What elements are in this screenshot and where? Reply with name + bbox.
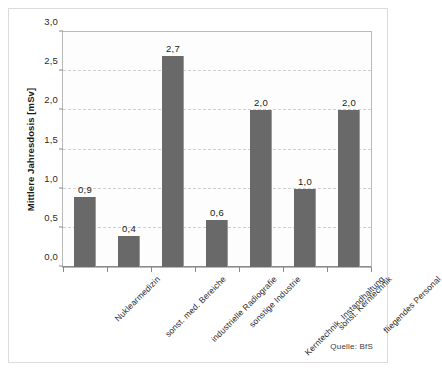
x-tick-mark <box>151 267 152 272</box>
bar-slot: 2,0 <box>239 32 283 267</box>
bar-value-label: 2,0 <box>342 97 356 108</box>
y-tick-label: 0,0 <box>44 251 58 262</box>
bar[interactable] <box>338 110 360 267</box>
x-tick-mark <box>239 267 240 272</box>
bar[interactable] <box>250 110 272 267</box>
x-tick-mark <box>371 267 372 272</box>
bar[interactable] <box>74 197 96 268</box>
source-note: Quelle: BfS <box>330 342 373 351</box>
bar-value-label: 1,0 <box>298 176 312 187</box>
y-tick-label: 1,5 <box>44 133 58 144</box>
x-tick-mark <box>63 267 64 272</box>
y-tick-label: 2,5 <box>44 55 58 66</box>
y-tick-label: 2,0 <box>44 94 58 105</box>
bar-value-label: 0,6 <box>210 207 224 218</box>
x-tick-mark <box>107 267 108 272</box>
bar-slot: 2,7 <box>151 32 195 267</box>
plot-inner: 0,00,51,01,52,02,53,0 0,90,42,70,62,01,0… <box>63 32 371 267</box>
x-tick-mark <box>195 267 196 272</box>
bar-slot: 2,0 <box>327 32 371 267</box>
y-tick-label: 3,0 <box>44 16 58 27</box>
bar[interactable] <box>162 56 184 268</box>
bar-slot: 0,6 <box>195 32 239 267</box>
x-tick-mark <box>283 267 284 272</box>
x-axis-label: Nuklearmedizin <box>112 274 161 323</box>
y-tick-label: 1,0 <box>44 172 58 183</box>
bar-value-label: 0,4 <box>122 223 136 234</box>
bar-slot: 1,0 <box>283 32 327 267</box>
bar-slot: 0,9 <box>63 32 107 267</box>
y-tick-label: 0,5 <box>44 211 58 222</box>
bar-value-label: 2,0 <box>254 97 268 108</box>
bar[interactable] <box>206 220 228 267</box>
bar-slot: 0,4 <box>107 32 151 267</box>
chart-card: Mittlere Jahresdosis [mSv] 0,00,51,01,52… <box>8 8 388 363</box>
bar-value-label: 0,9 <box>78 184 92 195</box>
plot-area: 0,00,51,01,52,02,53,0 0,90,42,70,62,01,0… <box>62 31 372 268</box>
bar-value-label: 2,7 <box>166 43 180 54</box>
y-axis-title: Mittlere Jahresdosis [mSv] <box>23 31 37 268</box>
x-tick-mark <box>327 267 328 272</box>
bar[interactable] <box>118 236 140 267</box>
bar[interactable] <box>294 189 316 267</box>
